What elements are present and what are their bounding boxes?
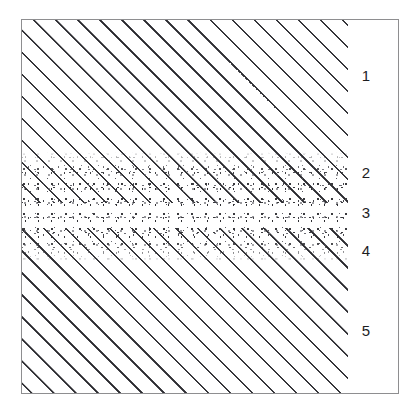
zone-label-column: 1 2 3 4 5 <box>348 20 399 393</box>
pattern-area <box>22 20 348 393</box>
zone-label-1: 1 <box>348 68 384 83</box>
zone-label-5: 5 <box>348 323 384 338</box>
figure-canvas: 1 2 3 4 5 <box>0 0 414 416</box>
zone-label-2: 2 <box>348 165 384 180</box>
hatch-band-zone-5 <box>22 282 348 393</box>
zone-label-3: 3 <box>348 205 384 220</box>
zone-label-4: 4 <box>348 243 384 258</box>
stipple-band-zone-3 <box>22 152 348 262</box>
